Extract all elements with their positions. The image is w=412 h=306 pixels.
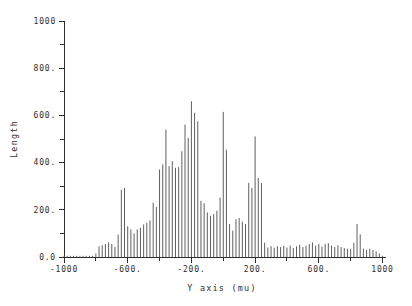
bar-chart: 0.0200.400.600.800.1000-1000-600.-200.20… <box>0 0 412 306</box>
y-tick-label: 800. <box>34 64 56 73</box>
x-tick-label: -600. <box>114 265 142 274</box>
screenshot-root: 0.0200.400.600.800.1000-1000-600.-200.20… <box>0 0 412 306</box>
x-tick-label: 600. <box>308 265 330 274</box>
x-axis-title: Y axis (mu) <box>187 283 257 293</box>
y-axis-title: Length <box>9 120 19 158</box>
y-tick-label: 400. <box>34 158 56 167</box>
x-tick-label: 200. <box>244 265 266 274</box>
x-tick-label: -1000 <box>50 265 78 274</box>
y-tick-label: 0.0 <box>39 253 56 262</box>
plot-area: 0.0200.400.600.800.1000-1000-600.-200.20… <box>34 17 394 274</box>
x-tick-label: 1000 <box>371 265 393 274</box>
y-tick-label: 1000 <box>34 17 56 26</box>
y-tick-label: 200. <box>34 206 56 215</box>
x-tick-label: -200. <box>177 265 205 274</box>
y-tick-label: 600. <box>34 111 56 120</box>
